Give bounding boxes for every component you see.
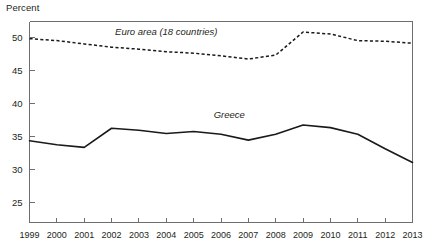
x-tick-label: 2012	[375, 230, 395, 240]
series-line-greece	[30, 125, 413, 163]
x-tick-label: 2010	[320, 230, 340, 240]
x-tick-label: 2003	[129, 230, 149, 240]
series-line-euro-area-18-countries	[30, 32, 413, 59]
y-tick-label: 30	[12, 164, 23, 175]
y-tick-label: 40	[12, 98, 23, 109]
series-annotations: Euro area (18 countries)Greece	[115, 26, 245, 120]
series-label-greece: Greece	[214, 109, 245, 120]
series-label-euro-area-18-countries: Euro area (18 countries)	[115, 26, 217, 37]
x-tick-label: 2000	[47, 230, 67, 240]
percent-line-chart: Percent 253035404550 1999200020012002200…	[0, 0, 425, 249]
chart-plot-area: 253035404550 199920002001200220032004200…	[0, 0, 425, 249]
series-layer	[30, 32, 413, 162]
x-axis-ticks: 1999200020012002200320042005200620072008…	[19, 218, 422, 240]
x-tick-label: 2011	[348, 230, 367, 240]
x-tick-label: 2007	[238, 230, 258, 240]
plot-frame	[30, 22, 413, 223]
y-tick-label: 50	[12, 32, 23, 43]
x-tick-label: 2006	[211, 230, 231, 240]
x-tick-label: 2004	[156, 230, 176, 240]
x-tick-label: 2001	[74, 230, 94, 240]
x-tick-label: 2009	[293, 230, 313, 240]
y-tick-label: 35	[12, 131, 23, 142]
x-tick-label: 2013	[402, 230, 422, 240]
x-tick-label: 2002	[102, 230, 122, 240]
y-axis-ticks: 253035404550	[12, 32, 35, 208]
x-tick-label: 2005	[184, 230, 204, 240]
x-tick-label: 2008	[266, 230, 286, 240]
x-tick-label: 1999	[19, 230, 39, 240]
y-tick-label: 25	[12, 197, 23, 208]
y-tick-label: 45	[12, 65, 23, 76]
